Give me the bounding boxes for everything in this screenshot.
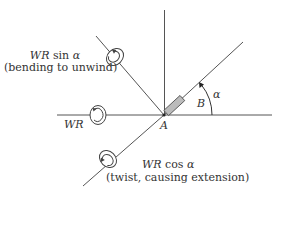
wr-cos-note: (twist, causing extension) [106, 171, 249, 184]
angle-alpha-label: α [213, 88, 220, 101]
rotation-symbol-icon [90, 106, 106, 125]
point-b-label: B [197, 97, 205, 110]
wr-cos-wr: WR [142, 158, 162, 171]
wr-cos-alpha: α [187, 158, 194, 171]
bending-axis-line [96, 36, 164, 115]
rotation-symbol-icon [96, 147, 120, 171]
wr-cos-func: cos [162, 158, 187, 171]
point-a-label: A [160, 119, 168, 132]
rod-element [164, 95, 185, 115]
wr-cos-label: WR cos α [142, 158, 194, 171]
wr-sin-note: (bending to unwind) [4, 61, 117, 74]
wr-label: WR [64, 118, 84, 131]
point-a-marker [162, 113, 165, 116]
